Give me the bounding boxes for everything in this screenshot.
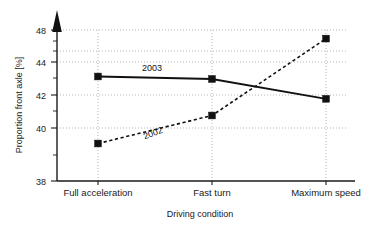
x-gridlines — [98, 30, 326, 181]
y-axis-title: Proportion front axle [%] — [14, 57, 24, 154]
ytick-label-38: 38 — [36, 177, 46, 187]
datapoint-2003-fast-turn — [209, 76, 216, 83]
ytick-label-40: 40 — [36, 124, 46, 134]
datapoint-2002-maximum-speed — [323, 35, 330, 42]
xtick-label-full-acceleration: Full acceleration — [63, 187, 132, 198]
x-axis-title: Driving condition — [167, 209, 234, 219]
series-label-2003: 2003 — [142, 63, 162, 73]
datapoint-2003-maximum-speed — [323, 95, 330, 102]
y-major-ticks — [51, 30, 57, 181]
xtick-label-fast-turn: Fast turn — [193, 187, 231, 198]
series-label-2002: 2002 — [142, 125, 164, 142]
ytick-label-44: 44 — [36, 58, 46, 68]
ytick-label-42: 42 — [36, 91, 46, 101]
line-chart-canvas: 48 44 42 40 38 2003 2002 Full accelerati… — [0, 0, 383, 229]
datapoint-2002-fast-turn — [209, 112, 216, 119]
ytick-label-48: 48 — [36, 26, 46, 36]
xtick-label-maximum-speed: Maximum speed — [291, 187, 361, 198]
datapoint-2002-full-acceleration — [95, 140, 102, 147]
datapoint-2003-full-acceleration — [95, 73, 102, 80]
chart-figure: 48 44 42 40 38 2003 2002 Full accelerati… — [0, 0, 383, 229]
y-axis-arrow-icon — [52, 10, 62, 32]
